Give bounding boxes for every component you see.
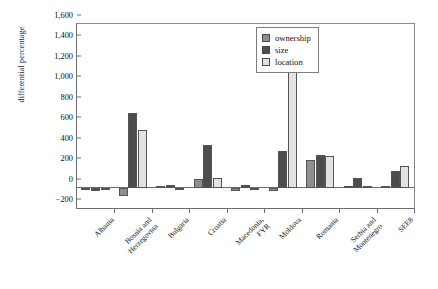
bar-location: [363, 186, 372, 188]
x-tick-mark: [302, 208, 303, 213]
bar-ownership: [269, 188, 278, 191]
y-tick-mark: [77, 55, 81, 56]
legend-label-location: location: [275, 57, 303, 67]
x-axis-label: Moldova: [278, 216, 303, 241]
bar-chart: differential percentage AlbaniaBosnia an…: [0, 0, 438, 289]
y-tick-mark: [77, 96, 81, 97]
bar-size: [166, 185, 175, 188]
bar-ownership: [119, 188, 128, 196]
y-tick-mark: [77, 35, 81, 36]
x-tick-mark: [414, 208, 415, 213]
y-axis-tick: 1,200: [54, 51, 77, 60]
y-tick-mark: [77, 76, 81, 77]
bar-size: [203, 145, 212, 187]
bar-location: [138, 130, 147, 187]
y-axis-tick: 0: [69, 174, 77, 183]
bar-location: [400, 166, 409, 187]
x-axis-label: Romania: [315, 216, 340, 241]
x-tick-mark: [377, 208, 378, 213]
x-axis-label: Bosnia and Herzegovina: [120, 216, 159, 255]
x-axis-label: Croatia: [206, 216, 228, 238]
legend-swatch-ownership: [262, 34, 270, 42]
x-axis-label: Bulgaria: [166, 216, 191, 241]
bar-group: Serbia and Montenegro: [339, 24, 376, 208]
y-tick-mark: [77, 158, 81, 159]
bar-ownership: [81, 188, 90, 190]
plot-area: AlbaniaBosnia and HerzegovinaBulgariaCro…: [76, 23, 415, 209]
bar-location: [175, 188, 184, 190]
legend-item-location: location: [262, 56, 311, 68]
bar-ownership: [381, 186, 390, 188]
bar-groups: AlbaniaBosnia and HerzegovinaBulgariaCro…: [77, 24, 414, 208]
y-axis-tick: 1,600: [54, 11, 77, 20]
y-tick-mark: [77, 15, 81, 16]
y-tick-mark: [77, 117, 81, 118]
bar-group: Croatia: [189, 24, 226, 208]
bar-group: Albania: [77, 24, 114, 208]
legend-label-ownership: ownership: [275, 33, 311, 43]
x-tick-mark: [114, 208, 115, 213]
x-axis-label: Macedonia, FYR: [235, 216, 272, 253]
bar-size: [391, 171, 400, 188]
y-axis-title: differential percentage: [17, 0, 26, 130]
x-tick-mark: [189, 208, 190, 213]
bar-location: [101, 188, 110, 191]
bar-location: [325, 156, 334, 187]
bar-size: [353, 178, 362, 187]
legend-swatch-size: [262, 46, 270, 54]
bar-size: [91, 188, 100, 191]
legend-item-size: size: [262, 44, 311, 56]
y-axis-tick: 1,000: [54, 72, 77, 81]
bar-ownership: [156, 186, 165, 188]
y-axis-tick: −200: [56, 195, 77, 204]
x-tick-mark: [264, 208, 265, 213]
legend-swatch-location: [262, 58, 270, 66]
bar-ownership: [306, 160, 315, 188]
bar-location: [213, 178, 222, 187]
x-tick-mark: [227, 208, 228, 213]
bar-ownership: [344, 186, 353, 188]
y-axis-tick: 200: [60, 154, 77, 163]
y-axis-tick: 400: [60, 133, 77, 142]
x-tick-mark: [152, 208, 153, 213]
bar-group: SEE8: [377, 24, 414, 208]
bar-ownership: [194, 179, 203, 188]
y-axis-tick: 600: [60, 113, 77, 122]
x-tick-mark: [339, 208, 340, 213]
bar-size: [128, 113, 137, 188]
y-tick-mark: [77, 178, 81, 179]
y-axis-tick: 800: [60, 92, 77, 101]
y-tick-mark: [77, 137, 81, 138]
bar-group: Bosnia and Herzegovina: [114, 24, 151, 208]
bar-location: [250, 188, 259, 190]
legend-label-size: size: [275, 45, 288, 55]
bar-group: Bulgaria: [152, 24, 189, 208]
x-axis-label: SEE8: [397, 216, 415, 234]
legend-item-ownership: ownership: [262, 32, 311, 44]
y-axis-tick: 1,400: [54, 31, 77, 40]
bar-location: [288, 55, 297, 188]
bar-size: [241, 185, 250, 188]
bar-size: [278, 151, 287, 188]
bar-size: [316, 155, 325, 188]
x-axis-label: Serbia and Montenegro: [346, 216, 384, 254]
y-tick-mark: [77, 199, 81, 200]
x-axis-label: Albania: [93, 216, 116, 239]
bar-ownership: [231, 188, 240, 192]
chart-legend: ownership size location: [256, 27, 319, 73]
